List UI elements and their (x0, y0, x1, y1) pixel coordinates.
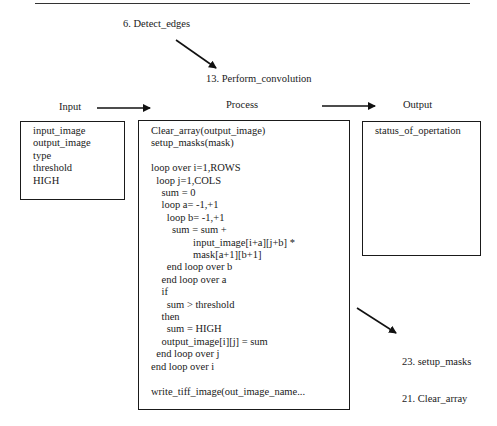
process-line: input_image[i+a][j+b] * (151, 237, 305, 249)
process-line: end loop over j (151, 348, 305, 360)
input-box: input_image output_image type threshold … (20, 121, 125, 200)
process-line: mask[a+1][b+1] (151, 249, 305, 261)
process-line: sum = 0 (151, 187, 305, 199)
output-item: status_of_opertation (375, 125, 461, 137)
process-line: end loop over i (151, 361, 305, 373)
process-to-submodules-arrow (357, 308, 396, 333)
input-item: HIGH (33, 175, 91, 187)
process-line: sum > threshold (151, 299, 305, 311)
input-column-heading: Input (59, 101, 81, 113)
input-item: input_image (33, 125, 91, 137)
process-line: loop j=1,COLS (151, 175, 305, 187)
input-item: threshold (33, 162, 91, 174)
process-line: end loop over a (151, 274, 305, 286)
process-line: if (151, 286, 305, 298)
submodule-item: 23. setup_masks (402, 356, 471, 368)
process-line: output_image[i][j] = sum (151, 336, 305, 348)
process-line: loop b= -1,+1 (151, 212, 305, 224)
process-line: then (151, 311, 305, 323)
module-title: 13. Perform_convolution (206, 73, 312, 85)
process-line: loop a= -1,+1 (151, 199, 305, 211)
process-column-heading: Process (226, 99, 258, 111)
process-line: setup_masks(mask) (151, 137, 305, 149)
process-box: Clear_array(output_image) setup_masks(ma… (138, 120, 350, 410)
input-item: type (33, 150, 91, 162)
process-line: Clear_array(output_image) (151, 125, 305, 137)
process-line: sum = sum + (151, 224, 305, 236)
parent-module-label: 6. Detect_edges (123, 18, 190, 30)
process-line: loop over i=1,ROWS (151, 162, 305, 174)
output-box: status_of_opertation (362, 121, 481, 256)
output-column-heading: Output (403, 99, 432, 111)
process-line (151, 373, 305, 385)
process-line: end loop over b (151, 261, 305, 273)
submodule-list: 23. setup_masks 21. Clear_array (402, 331, 471, 418)
process-line: write_tiff_image(out_image_name... (151, 386, 305, 398)
submodule-item: 21. Clear_array (402, 393, 471, 405)
process-line (151, 150, 305, 162)
process-line: sum = HIGH (151, 323, 305, 335)
input-item: output_image (33, 137, 91, 149)
parent-to-module-arrow (176, 40, 216, 68)
